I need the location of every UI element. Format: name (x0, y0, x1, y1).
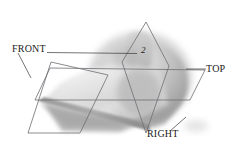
label-right: RIGHT (147, 129, 179, 139)
label-front: FRONT (12, 44, 46, 54)
object-highlight (112, 46, 140, 68)
object-floor-smudge (184, 120, 208, 132)
diagram-canvas: FRONT TOP RIGHT 2 (0, 0, 239, 154)
label-callout-2: 2 (141, 46, 146, 55)
label-top: TOP (206, 64, 225, 74)
diagram-svg (0, 0, 239, 154)
object-artwork (38, 32, 208, 132)
front-leader-diagonal (18, 53, 31, 78)
